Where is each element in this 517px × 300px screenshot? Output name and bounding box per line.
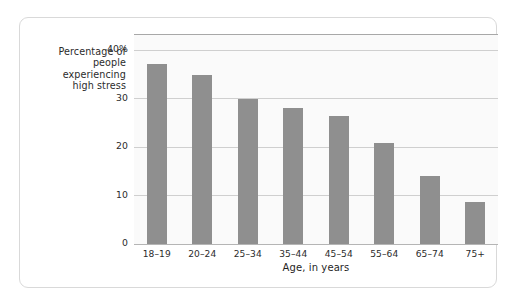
x-axis-title: Age, in years xyxy=(134,262,498,273)
bar xyxy=(192,75,212,243)
y-axis-title-line-4: high stress xyxy=(28,80,126,91)
bar xyxy=(329,116,349,244)
y-axis-tick-label: 30 xyxy=(82,92,128,103)
bar xyxy=(147,64,167,243)
y-axis-tick-label: 10 xyxy=(82,189,128,200)
bar xyxy=(238,99,258,243)
y-axis-tick-label: 40% xyxy=(82,43,128,54)
bar xyxy=(374,143,394,244)
x-axis-tick-label: 75+ xyxy=(445,249,505,259)
chart-card: Percentage of people experiencing high s… xyxy=(19,17,497,288)
bar-series xyxy=(134,35,498,244)
bar xyxy=(420,176,440,243)
bar xyxy=(465,202,485,244)
y-axis-tick-label: 20 xyxy=(82,140,128,151)
y-axis-tick-label: 0 xyxy=(82,237,128,248)
axis-baseline xyxy=(134,244,498,245)
plot-area xyxy=(134,34,498,244)
y-axis-title-line-2: people xyxy=(28,57,126,68)
y-axis-title-line-3: experiencing xyxy=(28,69,126,80)
bar xyxy=(283,108,303,244)
